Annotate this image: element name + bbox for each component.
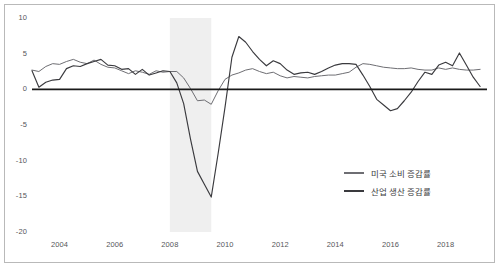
y-tick--10: -10 <box>1 156 27 165</box>
legend-label-consumption: 미국 소비 증감률 <box>371 167 431 179</box>
recession-band <box>170 18 211 232</box>
recession-shading <box>170 18 211 232</box>
x-tick-2012: 2012 <box>260 240 300 249</box>
legend-line-swatch-industrial <box>344 190 364 192</box>
x-tick-2014: 2014 <box>315 240 355 249</box>
chart-figure: 1050-5-10-15-20 200420062008201020122014… <box>0 0 500 272</box>
y-tick-0: 0 <box>1 84 27 93</box>
x-tick-2016: 2016 <box>370 240 410 249</box>
chart-plot-area <box>0 0 500 272</box>
series-line-consumption <box>32 59 480 104</box>
x-tick-2004: 2004 <box>40 240 80 249</box>
chart-legend: 미국 소비 증감률 산업 생산 증감률 <box>344 165 480 201</box>
legend-item-industrial: 산업 생산 증감률 <box>344 183 480 199</box>
y-tick--5: -5 <box>1 120 27 129</box>
y-tick--20: -20 <box>1 227 27 236</box>
x-tick-2006: 2006 <box>95 240 135 249</box>
legend-line-swatch-consumption <box>344 172 364 174</box>
x-tick-2010: 2010 <box>205 240 245 249</box>
x-tick-2008: 2008 <box>150 240 190 249</box>
legend-label-industrial: 산업 생산 증감률 <box>371 185 431 197</box>
y-tick-10: 10 <box>1 13 27 22</box>
y-tick--15: -15 <box>1 191 27 200</box>
y-tick-5: 5 <box>1 49 27 58</box>
x-tick-2018: 2018 <box>426 240 466 249</box>
legend-item-consumption: 미국 소비 증감률 <box>344 165 480 181</box>
